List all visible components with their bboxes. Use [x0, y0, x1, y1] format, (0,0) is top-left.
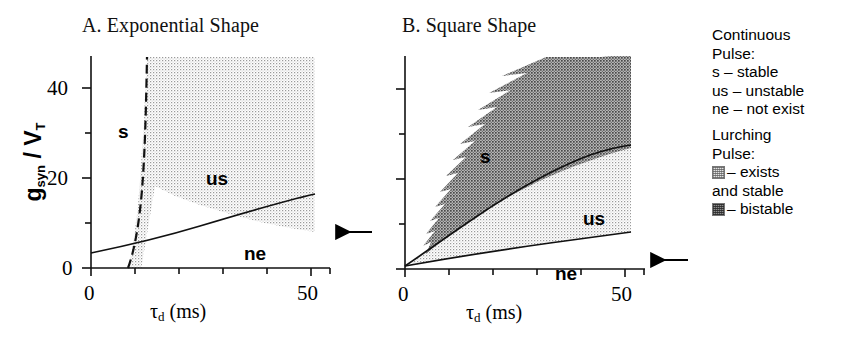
panel-a-ytick-20: 20 [47, 166, 68, 191]
panel-a-region-ne: ne [244, 243, 266, 265]
panel-b-x-ticks [405, 269, 644, 277]
panel-b-xtick-0: 0 [398, 282, 409, 307]
panel-a-ylabel-sub-syn: syn [33, 165, 48, 187]
legend-item-bistable: – bistable [712, 200, 860, 219]
legend-item-exists-stable: – exists [712, 163, 860, 182]
panel-a-region-us: us [206, 168, 228, 190]
panel-a-xlabel-unit: (ms) [165, 300, 207, 322]
legend-continuous-title-line1: Continuous [712, 26, 860, 45]
panel-b-xlabel-unit: (ms) [481, 301, 523, 323]
panel-b-region-us: us [583, 208, 605, 230]
legend-item-s-stable: s – stable [712, 63, 860, 82]
panel-b-xlabel-tau: τ [466, 301, 474, 323]
panel-a-ylabel-sub-t: T [33, 123, 48, 131]
panel-square-shape: B. Square Shape [390, 0, 690, 340]
panel-a-xlabel-tau: τ [150, 300, 158, 322]
legend-exists-text: – exists [727, 163, 780, 180]
legend-bistable-text: – bistable [727, 200, 793, 217]
panel-b-y-ticks [396, 89, 405, 269]
panel-b-region-ne: ne [555, 263, 577, 285]
panel-b-plot [390, 0, 690, 340]
panel-a-xtick-50: 50 [297, 281, 318, 306]
legend-group-lurching-pulse: Lurching Pulse: – exists and stable – bi… [712, 126, 860, 219]
legend: Continuous Pulse: s – stable us – unstab… [712, 26, 860, 226]
legend-swatch-dark-stipple-icon [712, 203, 725, 216]
legend-item-exists-stable-line2: and stable [712, 182, 860, 201]
legend-lurching-title-line2: Pulse: [712, 145, 860, 164]
panel-exponential-shape: A. Exponential Shape [0, 0, 390, 340]
panel-a-lurching-region [128, 57, 315, 276]
legend-continuous-title-line2: Pulse: [712, 45, 860, 64]
panel-a-region-s: s [118, 121, 129, 143]
panel-b-xtick-50: 50 [611, 282, 632, 307]
panel-a-xtick-0: 0 [84, 281, 95, 306]
panel-b-x-axis-title: τd (ms) [466, 301, 522, 326]
panel-a-y-ticks [82, 88, 91, 268]
panel-a-x-axis-title: τd (ms) [150, 300, 206, 325]
panel-a-x-ticks [91, 268, 330, 276]
legend-item-us-unstable: us – unstable [712, 82, 860, 101]
panel-b-region-s: s [480, 146, 491, 168]
legend-swatch-light-stipple-icon [712, 166, 725, 179]
panel-a-ylabel-g: g [20, 187, 46, 201]
legend-lurching-title-line1: Lurching [712, 126, 860, 145]
legend-item-ne-not-exist: ne – not exist [712, 100, 860, 119]
panel-a-y-axis-title: gsyn / VT [20, 92, 48, 232]
panel-a-ytick-40: 40 [47, 76, 68, 101]
legend-group-continuous-pulse: Continuous Pulse: s – stable us – unstab… [712, 26, 860, 119]
panel-a-ylabel-slash-v: / V [20, 130, 46, 165]
panel-a-ytick-0: 0 [62, 256, 73, 281]
figure-root: A. Exponential Shape [0, 0, 860, 340]
